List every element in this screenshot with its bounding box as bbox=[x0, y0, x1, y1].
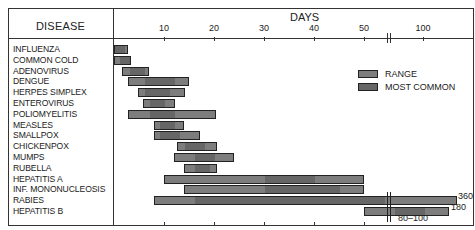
tick-mark-bottom bbox=[364, 222, 365, 226]
most-common-segment bbox=[115, 46, 125, 53]
tick-mark bbox=[314, 37, 315, 41]
most-common-segment bbox=[120, 57, 130, 64]
tick-mark bbox=[214, 37, 215, 41]
legend-range-swatch bbox=[358, 70, 378, 78]
most-common-segment bbox=[145, 78, 175, 85]
hepb-max-annotation: 180 bbox=[451, 202, 466, 212]
legend-range: RANGE bbox=[358, 67, 455, 80]
disease-label: ENTEROVIRUS bbox=[13, 98, 105, 109]
tick-mark bbox=[364, 37, 365, 41]
range-bar bbox=[138, 88, 185, 97]
legend-most-common-label: MOST COMMON bbox=[385, 82, 455, 92]
tick-label: 100 bbox=[415, 23, 430, 33]
most-common-segment bbox=[160, 132, 180, 139]
range-bar bbox=[184, 185, 364, 194]
legend-range-label: RANGE bbox=[385, 69, 417, 79]
disease-label: RABIES bbox=[13, 195, 105, 206]
header-divider bbox=[8, 38, 474, 39]
tick-mark bbox=[264, 37, 265, 41]
disease-label: HEPATITIS B bbox=[13, 206, 105, 217]
disease-label: MUMPS bbox=[13, 152, 105, 163]
most-common-segment bbox=[130, 68, 145, 75]
legend-most-common: MOST COMMON bbox=[358, 80, 455, 93]
bar-break-mark bbox=[390, 192, 391, 222]
most-common-segment bbox=[195, 154, 215, 161]
tick-mark-bottom bbox=[214, 222, 215, 226]
tick-mark-bottom bbox=[164, 222, 165, 226]
disease-label: COMMON COLD bbox=[13, 55, 105, 66]
range-bar bbox=[154, 121, 184, 130]
disease-label: HERPES SIMPLEX bbox=[13, 87, 105, 98]
disease-label: MEASLES bbox=[13, 120, 105, 131]
range-bar bbox=[143, 99, 175, 108]
disease-label: DENGUE bbox=[13, 76, 105, 87]
tick-label: 40 bbox=[309, 23, 319, 33]
most-common-segment bbox=[150, 111, 175, 118]
disease-column-header: DISEASE bbox=[8, 20, 113, 32]
disease-label: RUBELLA bbox=[13, 163, 105, 174]
range-bar bbox=[154, 196, 457, 205]
range-bar bbox=[122, 67, 149, 76]
range-bar bbox=[114, 56, 131, 65]
most-common-segment bbox=[150, 100, 165, 107]
most-common-segment bbox=[265, 186, 340, 193]
rabies-max-annotation: 360 bbox=[458, 191, 473, 201]
disease-label: HEPATITIS A bbox=[13, 174, 105, 185]
tick-label: 30 bbox=[259, 23, 269, 33]
tick-mark-bottom bbox=[264, 222, 265, 226]
axis-break-mark bbox=[390, 33, 391, 43]
range-bar bbox=[114, 45, 128, 54]
most-common-segment bbox=[160, 122, 175, 129]
column-divider bbox=[113, 8, 114, 226]
range-bar bbox=[164, 175, 364, 184]
axis-break-mark bbox=[387, 33, 388, 43]
range-bar bbox=[128, 110, 216, 119]
legend: RANGE MOST COMMON bbox=[358, 67, 455, 93]
hepb-common-annotation: 80–100 bbox=[398, 213, 428, 223]
range-bar bbox=[177, 142, 217, 151]
days-axis-title: DAYS bbox=[290, 11, 319, 23]
range-bar bbox=[128, 77, 189, 86]
tick-label: 10 bbox=[159, 23, 169, 33]
disease-label: CHICKENPOX bbox=[13, 141, 105, 152]
disease-label: INFLUENZA bbox=[13, 44, 105, 55]
tick-mark bbox=[164, 37, 165, 41]
disease-label: SMALLPOX bbox=[13, 130, 105, 141]
tick-label: 50 bbox=[359, 23, 369, 33]
bar-break-mark bbox=[387, 192, 388, 222]
tick-mark-bottom bbox=[314, 222, 315, 226]
disease-labels: INFLUENZACOMMON COLDADENOVIRUSDENGUEHERP… bbox=[13, 44, 105, 217]
disease-label: POLIOMYELITIS bbox=[13, 109, 105, 120]
disease-label: ADENOVIRUS bbox=[13, 66, 105, 77]
most-common-segment bbox=[195, 197, 385, 204]
legend-most-common-swatch bbox=[358, 83, 378, 91]
most-common-segment bbox=[265, 176, 315, 183]
disease-label: INF. MONONUCLEOSIS bbox=[13, 184, 105, 195]
range-bar bbox=[154, 131, 200, 140]
tick-label: 20 bbox=[209, 23, 219, 33]
most-common-segment bbox=[145, 89, 170, 96]
tick-mark bbox=[423, 37, 424, 41]
range-bar bbox=[184, 164, 217, 173]
range-bar bbox=[174, 153, 234, 162]
most-common-segment bbox=[195, 165, 210, 172]
most-common-segment bbox=[185, 143, 205, 150]
